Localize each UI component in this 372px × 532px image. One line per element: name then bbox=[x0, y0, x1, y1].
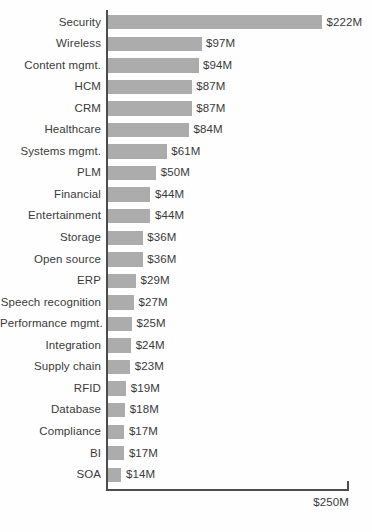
bar-rows: Security$222MWireless$97MContent mgmt.$9… bbox=[0, 0, 372, 532]
bar-value-label: $87M bbox=[196, 76, 225, 98]
bar-row: Supply chain$23M bbox=[0, 356, 372, 378]
bar-category-label: HCM bbox=[0, 76, 101, 98]
bar-row: Database$18M bbox=[0, 399, 372, 421]
bar-row: Content mgmt.$94M bbox=[0, 55, 372, 77]
bar-category-label: Security bbox=[0, 12, 101, 34]
bar-value-label: $44M bbox=[155, 205, 184, 227]
bar-row: RFID$19M bbox=[0, 378, 372, 400]
bar bbox=[108, 425, 124, 439]
bar bbox=[108, 403, 125, 417]
bar-category-label: Supply chain bbox=[0, 356, 101, 378]
bar-category-label: ERP bbox=[0, 270, 101, 292]
bar-category-label: Speech recognition bbox=[0, 292, 101, 314]
bar-row: CRM$87M bbox=[0, 98, 372, 120]
bar bbox=[108, 317, 132, 331]
bar-row: Integration$24M bbox=[0, 335, 372, 357]
bar bbox=[108, 101, 192, 115]
bar-category-label: BI bbox=[0, 443, 101, 465]
bar bbox=[108, 187, 150, 201]
bar bbox=[108, 37, 202, 51]
bar bbox=[108, 144, 167, 158]
bar bbox=[108, 58, 199, 72]
bar-value-label: $50M bbox=[161, 162, 190, 184]
bar-category-label: Database bbox=[0, 399, 101, 421]
bar bbox=[108, 252, 143, 266]
bar-chart: $250M Security$222MWireless$97MContent m… bbox=[0, 0, 372, 532]
bar-row: Speech recognition$27M bbox=[0, 292, 372, 314]
bar-row: Healthcare$84M bbox=[0, 119, 372, 141]
bar-row: Wireless$97M bbox=[0, 33, 372, 55]
bar-category-label: Performance mgmt. bbox=[0, 313, 101, 335]
bar-value-label: $25M bbox=[137, 313, 166, 335]
bar-value-label: $17M bbox=[129, 443, 158, 465]
bar-category-label: Integration bbox=[0, 335, 101, 357]
bar bbox=[108, 274, 136, 288]
bar-category-label: Financial bbox=[0, 184, 101, 206]
bar-value-label: $24M bbox=[136, 335, 165, 357]
bar bbox=[108, 295, 134, 309]
bar bbox=[108, 123, 189, 137]
bar-value-label: $17M bbox=[129, 421, 158, 443]
bar-row: Compliance$17M bbox=[0, 421, 372, 443]
bar bbox=[108, 15, 322, 29]
bar-value-label: $84M bbox=[193, 119, 222, 141]
bar-row: HCM$87M bbox=[0, 76, 372, 98]
bar bbox=[108, 338, 131, 352]
plot-area: $250M Security$222MWireless$97MContent m… bbox=[0, 0, 372, 532]
bar-category-label: Open source bbox=[0, 249, 101, 271]
bar-row: SOA$14M bbox=[0, 464, 372, 486]
bar-value-label: $97M bbox=[206, 33, 235, 55]
bar-row: Entertainment$44M bbox=[0, 205, 372, 227]
bar-value-label: $27M bbox=[139, 292, 168, 314]
bar bbox=[108, 80, 192, 94]
bar-category-label: Wireless bbox=[0, 33, 101, 55]
bar bbox=[108, 468, 121, 482]
bar-value-label: $36M bbox=[147, 227, 176, 249]
bar bbox=[108, 360, 130, 374]
bar bbox=[108, 209, 150, 223]
bar-category-label: Systems mgmt. bbox=[0, 141, 101, 163]
bar-row: Storage$36M bbox=[0, 227, 372, 249]
bar-row: PLM$50M bbox=[0, 162, 372, 184]
bar-value-label: $14M bbox=[126, 464, 155, 486]
bar-category-label: CRM bbox=[0, 98, 101, 120]
bar-value-label: $29M bbox=[140, 270, 169, 292]
bar bbox=[108, 166, 156, 180]
bar bbox=[108, 231, 143, 245]
bar-category-label: Storage bbox=[0, 227, 101, 249]
bar-row: Open source$36M bbox=[0, 249, 372, 271]
bar-row: Financial$44M bbox=[0, 184, 372, 206]
bar bbox=[108, 381, 126, 395]
bar-category-label: PLM bbox=[0, 162, 101, 184]
bar-value-label: $18M bbox=[130, 399, 159, 421]
bar-category-label: Content mgmt. bbox=[0, 55, 101, 77]
bar-row: Systems mgmt.$61M bbox=[0, 141, 372, 163]
bar-category-label: Healthcare bbox=[0, 119, 101, 141]
bar-value-label: $36M bbox=[147, 249, 176, 271]
bar bbox=[108, 446, 124, 460]
bar-value-label: $19M bbox=[131, 378, 160, 400]
bar-category-label: SOA bbox=[0, 464, 101, 486]
bar-value-label: $222M bbox=[327, 12, 363, 34]
bar-row: ERP$29M bbox=[0, 270, 372, 292]
bar-value-label: $94M bbox=[203, 55, 232, 77]
bar-value-label: $44M bbox=[155, 184, 184, 206]
bar-row: Security$222M bbox=[0, 12, 372, 34]
bar-category-label: Entertainment bbox=[0, 205, 101, 227]
bar-row: Performance mgmt.$25M bbox=[0, 313, 372, 335]
bar-row: BI$17M bbox=[0, 443, 372, 465]
bar-category-label: Compliance bbox=[0, 421, 101, 443]
bar-value-label: $87M bbox=[196, 98, 225, 120]
bar-value-label: $61M bbox=[171, 141, 200, 163]
bar-category-label: RFID bbox=[0, 378, 101, 400]
bar-value-label: $23M bbox=[135, 356, 164, 378]
